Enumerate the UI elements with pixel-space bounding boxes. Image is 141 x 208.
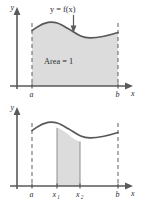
shaded-area-subinterval xyxy=(57,128,80,186)
y-axis-arrowhead xyxy=(14,7,21,15)
bound-label-x1-subscript: 1 xyxy=(57,194,60,200)
area-annotation: Area = 1 xyxy=(44,57,73,66)
y-axis-arrowhead xyxy=(14,107,21,115)
function-curve xyxy=(32,122,118,138)
bound-label-a: a xyxy=(30,90,34,99)
bound-label-x1-base: x xyxy=(52,190,57,199)
function-label: y = f(x) xyxy=(50,5,76,14)
bound-label-b: b xyxy=(116,190,120,199)
figure-container: y x y = f(x) Area = 1 a b y x a b x xyxy=(0,0,141,208)
top-panel: y x y = f(x) Area = 1 a b xyxy=(0,0,141,104)
x-axis-label: x xyxy=(130,89,135,98)
bound-label-a: a xyxy=(30,190,34,199)
bottom-panel: y x a b x 1 x 2 xyxy=(0,104,141,208)
bound-label-x2-subscript: 2 xyxy=(81,194,84,200)
bound-label-x2: x 2 xyxy=(75,190,84,200)
y-axis-label: y xyxy=(10,104,15,112)
y-axis-label: y xyxy=(10,3,15,12)
bound-label-x1: x 1 xyxy=(52,190,61,200)
bound-label-x2-base: x xyxy=(75,190,80,199)
bound-label-b: b xyxy=(116,90,120,99)
shaded-area-total xyxy=(32,22,118,86)
x-axis-label: x xyxy=(130,189,135,198)
